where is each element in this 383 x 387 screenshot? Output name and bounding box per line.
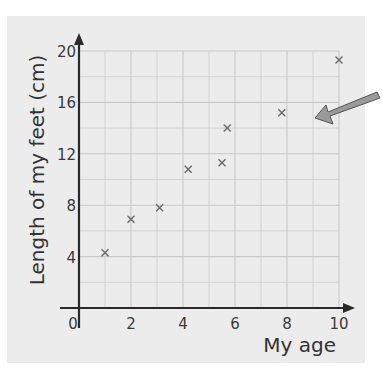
- grid-lines: [79, 51, 339, 308]
- y-tick-label: 4: [66, 249, 76, 267]
- y-tick-label: 12: [57, 146, 76, 164]
- x-tick-labels: 0246810: [68, 315, 348, 333]
- scatter-chart: 0246810 48121620 My age Length of my fee…: [0, 0, 383, 387]
- y-tick-label: 16: [57, 94, 76, 112]
- y-tick-labels: 48121620: [57, 43, 76, 267]
- data-points: [102, 56, 343, 256]
- x-axis-title: My age: [263, 333, 336, 357]
- x-tick-label: 6: [230, 315, 240, 333]
- axes: [60, 33, 355, 328]
- y-tick-label: 20: [57, 43, 76, 61]
- x-tick-label: 2: [126, 315, 136, 333]
- data-point-x-marker-icon: [278, 109, 285, 116]
- y-axis-title: Length of my feet (cm): [25, 55, 49, 286]
- annotation-arrow-icon: [315, 92, 380, 124]
- data-point-x-marker-icon: [185, 166, 192, 173]
- x-tick-label: 0: [68, 315, 78, 333]
- x-tick-label: 10: [329, 315, 348, 333]
- x-tick-label: 4: [178, 315, 188, 333]
- x-tick-label: 8: [282, 315, 292, 333]
- y-tick-label: 8: [66, 197, 76, 215]
- x-axis-arrow-icon: [343, 303, 355, 313]
- data-point-x-marker-icon: [219, 159, 226, 166]
